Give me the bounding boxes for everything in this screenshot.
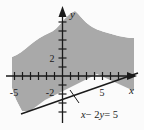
- x-tick-label-neg-five: -5: [10, 87, 18, 98]
- x-axis-label: x: [128, 84, 134, 96]
- y-tick-label-two: 2: [50, 53, 55, 64]
- x-tick-label-five: 5: [100, 87, 105, 98]
- region-right-trim: [134, 0, 144, 130]
- x-tick-label-neg-two: -2: [46, 87, 54, 98]
- equation-end-term: = 5: [104, 109, 118, 120]
- equation-annotation: x− 2y= 5: [80, 109, 118, 120]
- graph-canvas: y x -5 5 2 -2 x− 2y= 5: [0, 0, 144, 130]
- inequality-graph-figure: y x -5 5 2 -2 x− 2y= 5: [0, 0, 144, 130]
- equation-middle-term: − 2: [86, 109, 100, 120]
- y-axis-label: y: [69, 8, 75, 20]
